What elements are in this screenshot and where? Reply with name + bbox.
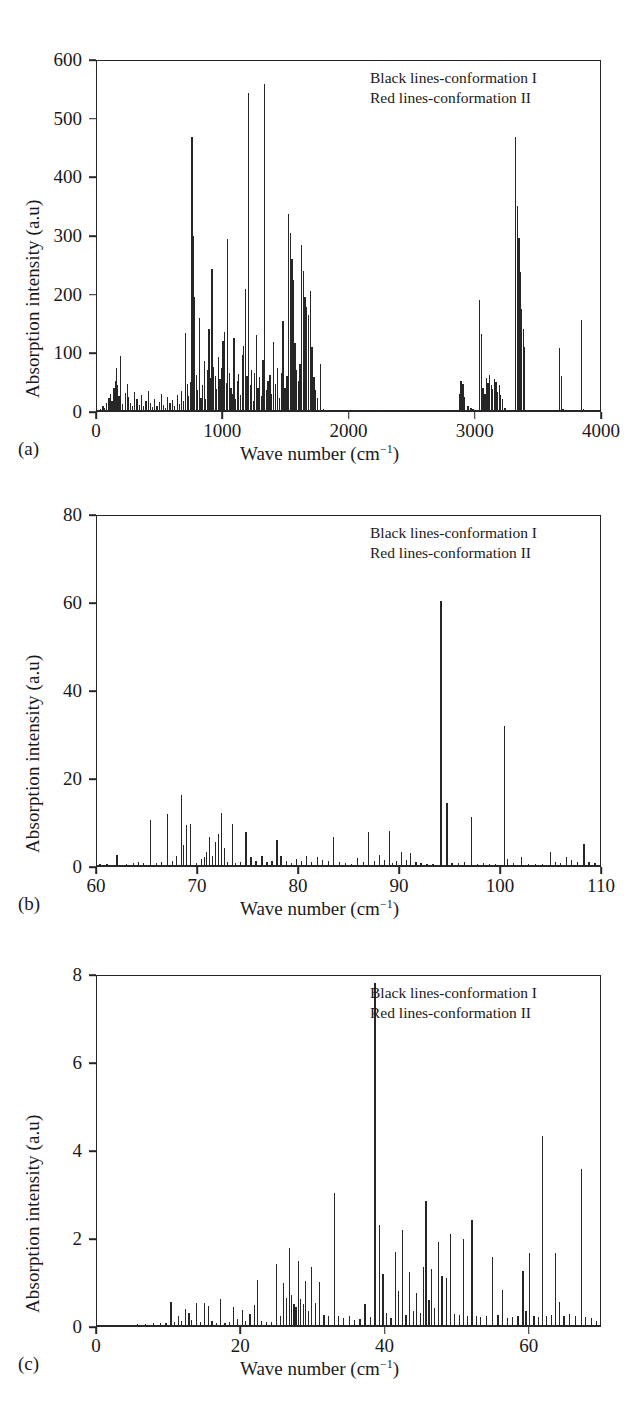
x-tick-mark [384, 1327, 386, 1334]
y-tick-label: 400 [22, 166, 82, 188]
y-tick-label: 200 [22, 284, 82, 306]
legend-line-red: Red lines-conformation II [370, 88, 537, 108]
y-tick-mark [89, 778, 96, 780]
y-tick-mark [89, 294, 96, 296]
x-tick-label: 110 [587, 875, 615, 897]
y-tick-label: 0 [22, 1316, 82, 1338]
y-tick-mark [89, 602, 96, 604]
y-tick-label: 40 [22, 680, 82, 702]
y-tick-label: 80 [22, 504, 82, 526]
x-tick-mark [398, 867, 400, 874]
x-tick-label: 20 [231, 1335, 250, 1357]
legend-line-black: Black lines-conformation I [370, 523, 537, 543]
x-tick-label: 1000 [203, 420, 241, 442]
x-tick-label: 0 [91, 1335, 101, 1357]
x-label-close: ) [393, 898, 399, 919]
y-tick-label: 500 [22, 108, 82, 130]
x-tick-mark [348, 412, 350, 419]
x-tick-mark [600, 867, 602, 874]
legend-line-black: Black lines-conformation I [370, 68, 537, 88]
panel-a-legend: Black lines-conformation I Red lines-con… [370, 68, 537, 108]
panel-a: Absorption intensity (a.u) 0100200300400… [0, 30, 639, 485]
panel-c-legend: Black lines-conformation I Red lines-con… [370, 983, 537, 1023]
panel-b-spectrum [97, 516, 600, 866]
panel-c-plot-area [96, 975, 601, 1327]
x-tick-label: 0 [91, 420, 101, 442]
y-tick-label: 300 [22, 225, 82, 247]
x-tick-mark [95, 412, 97, 419]
legend-line-red: Red lines-conformation II [370, 543, 537, 563]
x-tick-label: 40 [375, 1335, 394, 1357]
y-tick-label: 6 [22, 1052, 82, 1074]
y-tick-label: 4 [22, 1140, 82, 1162]
x-label-text: Wave number (cm [240, 443, 380, 464]
x-tick-label: 80 [289, 875, 308, 897]
panel-c-letter: (c) [18, 1353, 39, 1375]
panel-a-spectrum [97, 61, 600, 411]
x-tick-mark [600, 412, 602, 419]
panel-c: Absorption intensity (a.u) 02468 Black l… [0, 945, 639, 1423]
x-label-exponent: −1 [380, 897, 393, 911]
x-tick-label: 90 [390, 875, 409, 897]
y-tick-mark [89, 974, 96, 976]
x-tick-mark [297, 867, 299, 874]
panel-a-x-axis-label: Wave number (cm−1) [0, 442, 639, 465]
y-tick-label: 600 [22, 49, 82, 71]
panel-a-plot-area [96, 60, 601, 412]
figure-absorption-spectra: Absorption intensity (a.u) 0100200300400… [0, 0, 639, 1423]
x-tick-label: 4000 [582, 420, 620, 442]
y-tick-mark [89, 118, 96, 120]
y-tick-label: 0 [22, 856, 82, 878]
x-tick-label: 2000 [330, 420, 368, 442]
x-tick-label: 3000 [456, 420, 494, 442]
x-label-text: Wave number (cm [240, 898, 380, 919]
panel-b-plot-area [96, 515, 601, 867]
x-tick-mark [196, 867, 198, 874]
y-tick-label: 0 [22, 401, 82, 423]
x-tick-mark [95, 1327, 97, 1334]
y-tick-label: 60 [22, 592, 82, 614]
x-tick-label: 60 [87, 875, 106, 897]
x-tick-mark [221, 412, 223, 419]
y-tick-mark [89, 1150, 96, 1152]
y-tick-label: 2 [22, 1228, 82, 1250]
legend-line-red: Red lines-conformation II [370, 1003, 537, 1023]
y-tick-mark [89, 235, 96, 237]
x-tick-mark [528, 1327, 530, 1334]
x-label-exponent: −1 [380, 442, 393, 456]
x-label-exponent: −1 [380, 1357, 393, 1371]
panel-b-letter: (b) [18, 893, 40, 915]
x-label-close: ) [393, 1358, 399, 1379]
y-tick-mark [89, 353, 96, 355]
panel-b: Absorption intensity (a.u) 020406080 Bla… [0, 485, 639, 945]
x-tick-mark [499, 867, 501, 874]
y-tick-label: 8 [22, 964, 82, 986]
x-tick-label: 70 [188, 875, 207, 897]
x-tick-mark [239, 1327, 241, 1334]
y-tick-label: 100 [22, 342, 82, 364]
y-tick-label: 20 [22, 768, 82, 790]
x-label-close: ) [393, 443, 399, 464]
x-tick-label: 100 [486, 875, 515, 897]
x-tick-mark [474, 412, 476, 419]
y-tick-mark [89, 177, 96, 179]
y-tick-mark [89, 1238, 96, 1240]
y-tick-mark [89, 59, 96, 61]
y-tick-mark [89, 1062, 96, 1064]
x-tick-mark [95, 867, 97, 874]
legend-line-black: Black lines-conformation I [370, 983, 537, 1003]
y-tick-mark [89, 514, 96, 516]
x-label-text: Wave number (cm [240, 1358, 380, 1379]
panel-b-x-axis-label: Wave number (cm−1) [0, 897, 639, 920]
panel-c-x-axis-label: Wave number (cm−1) [0, 1357, 639, 1380]
panel-b-legend: Black lines-conformation I Red lines-con… [370, 523, 537, 563]
x-tick-label: 60 [519, 1335, 538, 1357]
y-tick-mark [89, 690, 96, 692]
panel-a-letter: (a) [18, 438, 39, 460]
panel-c-spectrum [97, 976, 600, 1326]
